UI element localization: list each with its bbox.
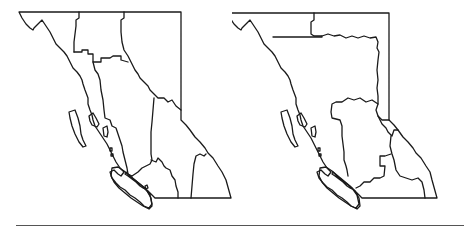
map-right: [232, 0, 464, 229]
island-haida-gwaii: [69, 110, 86, 147]
boundary: [390, 136, 425, 198]
province-outline: [19, 12, 231, 208]
boundary: [151, 158, 178, 198]
island-small-5: [145, 185, 148, 189]
boundary: [93, 62, 132, 176]
island-haida-gwaii: [281, 110, 298, 147]
boundary: [74, 50, 128, 62]
island-small-2: [311, 126, 316, 137]
boundary: [191, 154, 206, 198]
boundary: [331, 98, 378, 176]
island-small-2: [103, 126, 108, 137]
bc-regions-map-b: [232, 0, 464, 229]
boundary: [132, 98, 154, 176]
island-small-3: [110, 148, 112, 151]
map-left: [0, 0, 232, 229]
boundary: [121, 12, 181, 110]
bc-regions-map-a: [0, 0, 232, 229]
boundary: [74, 12, 79, 52]
boundary: [311, 13, 322, 36]
horizontal-divider: [16, 225, 464, 226]
island-small-3: [318, 148, 320, 151]
boundary: [356, 154, 391, 188]
